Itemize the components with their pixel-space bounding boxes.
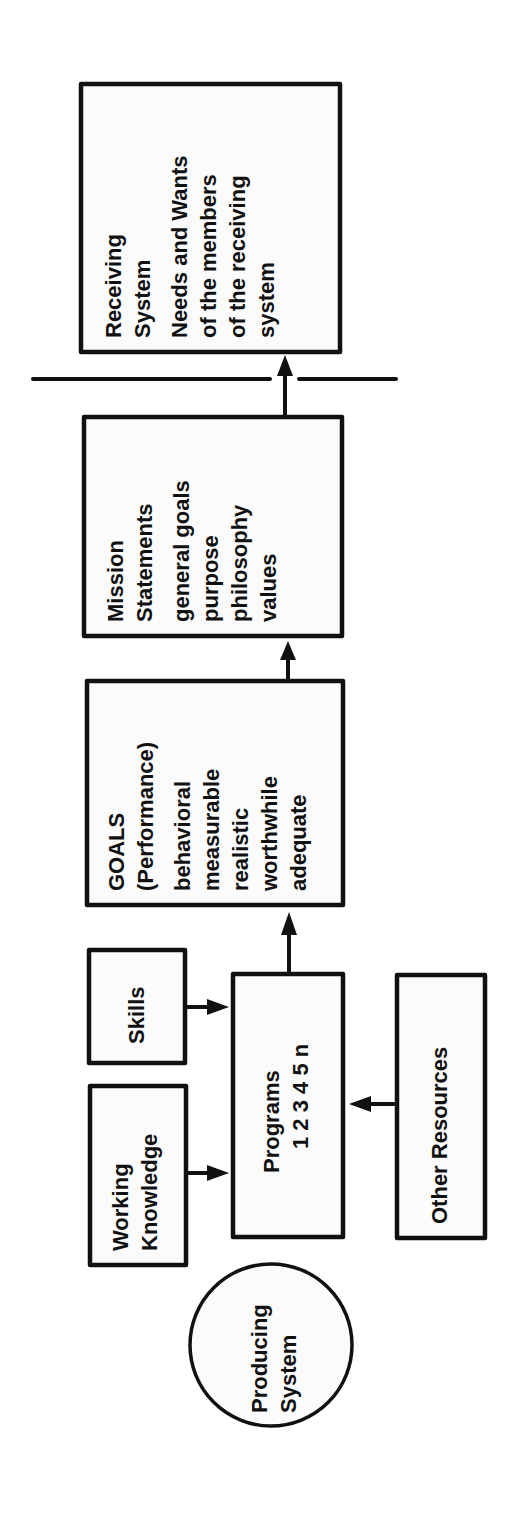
- receiving-system-text: Receiving System Needs and Wants of the …: [99, 155, 281, 338]
- mission-detail-line-4: values: [254, 480, 283, 622]
- programs-line-2: 1 2 3 4 5 n: [286, 1044, 315, 1173]
- receiving-detail-line-1: Needs and Wants: [165, 155, 194, 338]
- mission-detail-line-3: philosophy: [225, 480, 254, 622]
- arrow-mission-to-receiving: [277, 355, 293, 417]
- goals-detail-line-3: realistic: [226, 742, 255, 891]
- skills-text: Skills: [122, 987, 151, 1044]
- arrow-goals-to-mission: [280, 641, 296, 681]
- programs-text: Programs 1 2 3 4 5 n: [257, 1044, 315, 1173]
- goals-detail-line-5: adequate: [284, 742, 313, 891]
- other-resources-line-1: Other Resources: [425, 1047, 454, 1224]
- arrow-working-knowledge-to-programs: [186, 1165, 229, 1181]
- receiving-detail-line-3: of the receiving: [223, 155, 252, 338]
- producing-system-line-2: System: [274, 1304, 303, 1413]
- producing-system-line-1: Producing: [245, 1304, 274, 1413]
- arrow-programs-to-goals: [281, 912, 297, 974]
- goals-text: GOALS (Performance) behavioral measurabl…: [102, 742, 313, 891]
- arrow-other-resources-to-programs: [349, 1096, 397, 1112]
- goals-title-line-1: GOALS: [102, 742, 131, 891]
- receiving-detail-line-4: system: [252, 155, 281, 338]
- working-knowledge-line-2: Knowledge: [135, 1134, 164, 1251]
- receiving-detail-line-2: of the members: [194, 155, 223, 338]
- goals-detail-line-4: worthwhile: [255, 742, 284, 891]
- arrow-skills-to-programs: [185, 999, 229, 1015]
- receiving-title-line-2: System: [128, 155, 157, 338]
- programs-line-1: Programs: [257, 1044, 286, 1173]
- working-knowledge-text: Working Knowledge: [106, 1134, 164, 1251]
- mission-title-line-2: Statements: [130, 480, 159, 622]
- skills-line-1: Skills: [122, 987, 151, 1044]
- other-resources-text: Other Resources: [425, 1047, 454, 1224]
- mission-detail-line-1: general goals: [167, 480, 196, 622]
- receiving-title-line-1: Receiving: [99, 155, 128, 338]
- working-knowledge-line-1: Working: [106, 1134, 135, 1251]
- mission-statements-text: Mission Statements general goals purpose…: [101, 480, 283, 622]
- goals-detail-line-1: behavioral: [168, 742, 197, 891]
- goals-title-line-2: (Performance): [131, 742, 160, 891]
- mission-title-line-1: Mission: [101, 480, 130, 622]
- producing-system-text: Producing System: [245, 1304, 303, 1413]
- mission-detail-line-2: purpose: [196, 480, 225, 622]
- goals-detail-line-2: measurable: [197, 742, 226, 891]
